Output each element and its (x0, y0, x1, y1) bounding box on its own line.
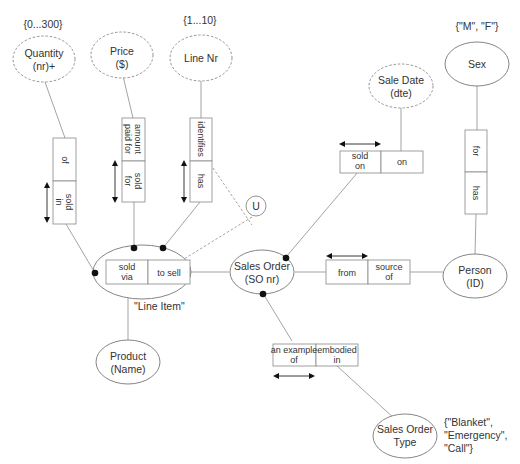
connector-quantity (45, 82, 65, 138)
connector-qty-lineitem (66, 224, 95, 273)
fact-person: from source of (326, 260, 410, 284)
fact-line-nr: identifies has (190, 118, 212, 202)
role-source-of-1: source (375, 262, 402, 272)
label-product: Product (110, 350, 146, 362)
role-sold-for-2: for (123, 176, 133, 187)
role-example-of-2: of (290, 355, 298, 365)
role-sold-in-2: in (54, 198, 64, 205)
connector-soldon-salesorder (286, 172, 358, 257)
uniqueness-label: U (252, 200, 260, 212)
mandatory-dot-type (260, 291, 267, 298)
mandatory-dot-price (131, 245, 138, 252)
mandatory-dot-quantity (92, 270, 99, 277)
uniqueness-arrow-line-nr (181, 160, 187, 203)
entity-person: Person (ID) (443, 254, 507, 298)
constraint-type-emergency: "Emergency", (444, 429, 507, 441)
uniqueness-arrow-type (273, 373, 315, 379)
uniqueness-arrow-sale-date (339, 141, 381, 147)
role-for: for (471, 146, 481, 157)
fact-product: sold via to sell (106, 260, 190, 284)
fact-sex: for has (465, 130, 487, 214)
mandatory-dot-sale-date (283, 255, 290, 262)
label-sex: Sex (468, 58, 487, 70)
label-sale-date: Sale Date (378, 74, 424, 86)
uniqueness-arrow-person (326, 253, 368, 259)
value-type-sale-date: Sale Date (dte) (369, 64, 433, 108)
fact-quantity: of sold in (53, 138, 76, 224)
connector-identifies-u (213, 168, 252, 225)
label-sales-order-type-2: Type (394, 436, 417, 448)
label-sales-order: Sales Order (234, 260, 291, 272)
role-of: of (60, 156, 70, 164)
value-type-price: Price ($) (91, 32, 153, 78)
role-sold-on-2: on (355, 161, 365, 171)
label-line-item: "Line Item" (134, 300, 185, 312)
label-sales-order-ref: (SO nr) (245, 273, 279, 285)
constraint-line-nr: {1...10} (183, 14, 217, 26)
label-quantity: Quantity (24, 47, 64, 59)
uniqueness-arrow-quantity (44, 182, 50, 223)
label-price-ref: ($) (116, 58, 129, 70)
role-to-sell: to sell (157, 268, 181, 278)
role-example-of-1: an example (271, 345, 318, 355)
role-embodied-in-2: in (333, 355, 340, 365)
role-on: on (397, 157, 407, 167)
role-from: from (338, 268, 356, 278)
label-sales-order-type: Sales Order (377, 423, 434, 435)
constraint-type-call: "Call"} (444, 442, 474, 454)
role-identifies: identifies (196, 121, 206, 157)
role-sold-via-1: sold (119, 262, 136, 272)
mandatory-dot-line-nr (160, 245, 167, 252)
constraint-sex: {"M", "F"} (456, 20, 499, 32)
entity-product: Product (Name) (96, 340, 160, 384)
role-sold-on-1: sold (352, 151, 369, 161)
fact-sales-order-type: an example of embodied in (271, 344, 358, 366)
label-quantity-ref: (nr)+ (33, 60, 55, 72)
uniqueness-arrow-price (112, 160, 118, 203)
entity-sales-order-type: Sales Order Type (373, 414, 437, 458)
role-sold-for-1: sold (133, 173, 143, 190)
label-line-nr: Line Nr (184, 52, 218, 64)
connector-salesorder-example (264, 295, 292, 341)
connector-example-type (336, 365, 396, 420)
constraint-type-blanket: {"Blanket", (444, 416, 493, 428)
constraint-sales-order-type: {"Blanket", "Emergency", "Call"} (444, 416, 507, 454)
entity-sex: Sex (445, 42, 509, 86)
uniqueness-constraint: U (246, 196, 266, 216)
role-sold-via-2: via (121, 272, 133, 282)
fact-sale-date: sold on on (340, 151, 423, 173)
role-embodied-in-1: embodied (317, 345, 357, 355)
constraint-quantity: {0...300} (23, 18, 63, 30)
connector-sexbox-person (475, 214, 476, 254)
connector-price (123, 76, 133, 118)
label-product-ref: (Name) (110, 363, 145, 375)
value-type-quantity: Quantity (nr)+ (13, 36, 75, 82)
value-type-line-nr: Line Nr (170, 35, 232, 81)
role-amount-paid-for-1: amount (133, 124, 143, 155)
role-has-sex: has (471, 186, 481, 201)
orm-diagram: Quantity (nr)+ {0...300} Price ($) Line … (0, 0, 520, 464)
label-person-ref: (ID) (466, 277, 484, 289)
role-source-of-2: of (385, 272, 393, 282)
label-price: Price (110, 45, 134, 57)
label-person: Person (458, 264, 491, 276)
connector-linenr-lineitem (163, 202, 200, 248)
role-amount-paid-for-2: paid for (123, 124, 133, 154)
role-has-linenr: has (196, 174, 206, 189)
label-sale-date-ref: (dte) (390, 87, 412, 99)
role-sold-in-1: sold (64, 194, 74, 211)
fact-price: amount paid for sold for (122, 118, 145, 202)
